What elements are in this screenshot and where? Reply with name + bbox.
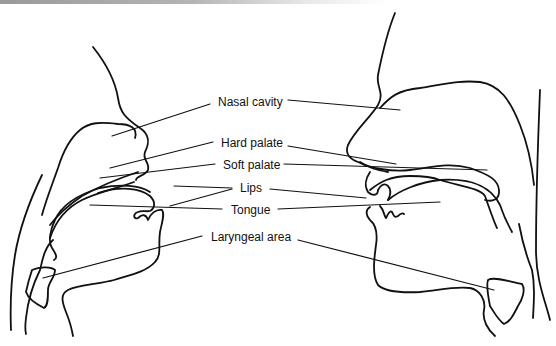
label-soft-palate: Soft palate (223, 158, 280, 172)
label-laryngeal-area: Laryngeal area (211, 230, 291, 244)
label-nasal-cavity: Nasal cavity (218, 95, 283, 109)
right-profile (347, 13, 550, 336)
leader-lines (43, 100, 494, 290)
label-lips: Lips (240, 181, 262, 195)
vocal-tract-diagram (0, 0, 556, 346)
label-hard-palate: Hard palate (221, 136, 283, 150)
left-profile (11, 47, 164, 336)
label-tongue: Tongue (231, 203, 270, 217)
